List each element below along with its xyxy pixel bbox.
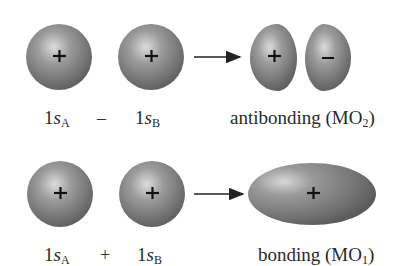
label-1sA-row2: 1sA xyxy=(44,245,70,266)
label-antibonding: antibonding (MO2) xyxy=(230,108,375,129)
orbital-diagram xyxy=(0,0,420,266)
label-bonding: bonding (MO1) xyxy=(258,245,374,266)
operator-minus: – xyxy=(97,109,106,127)
label-1sA-row1: 1sA xyxy=(44,108,70,129)
label-1sB-row1: 1sB xyxy=(135,108,160,129)
bonding-orbital-ellipse xyxy=(248,163,376,225)
orbital-1sB-row2 xyxy=(119,161,185,227)
label-1sB-row2: 1sB xyxy=(137,245,162,266)
orbital-1sA-row1 xyxy=(26,24,92,90)
antibonding-lobe-plus xyxy=(250,24,297,91)
operator-plus: + xyxy=(100,246,110,264)
orbital-1sA-row2 xyxy=(27,161,93,227)
antibonding-lobe-minus xyxy=(305,24,351,91)
orbital-1sB-row1 xyxy=(118,24,184,90)
